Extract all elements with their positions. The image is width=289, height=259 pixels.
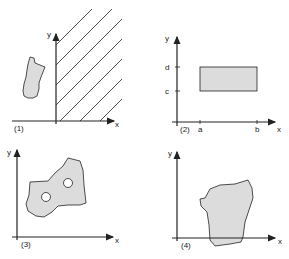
blob-region bbox=[23, 57, 45, 98]
y-axis-label: y bbox=[47, 30, 51, 39]
panel-label: (1) bbox=[14, 124, 24, 133]
x-axis-label: x bbox=[115, 236, 119, 245]
y-axis-label: y bbox=[165, 34, 169, 43]
panel-4: x y (4) bbox=[168, 149, 282, 250]
panel-2: d c a b x y (2) bbox=[165, 34, 281, 134]
tick-d: d bbox=[165, 63, 169, 72]
diagram-canvas: x y (1) d c a b x y (2) x y (3) x y bbox=[0, 0, 289, 259]
hole bbox=[64, 179, 73, 188]
crossing-region bbox=[200, 180, 253, 246]
tick-a: a bbox=[198, 125, 203, 134]
panel-label: (4) bbox=[181, 241, 191, 250]
tick-b: b bbox=[255, 125, 260, 134]
holed-region bbox=[26, 158, 86, 217]
panel-3: x y (3) bbox=[7, 148, 119, 249]
panel-label: (2) bbox=[180, 125, 190, 134]
tick-c: c bbox=[165, 87, 169, 96]
panel-1: x y (1) bbox=[12, 9, 132, 135]
x-axis-label: x bbox=[115, 120, 119, 129]
hole bbox=[42, 193, 51, 202]
x-axis-label: x bbox=[278, 237, 282, 246]
x-axis-label: x bbox=[277, 125, 281, 134]
hatch-region bbox=[56, 9, 132, 135]
y-axis-label: y bbox=[168, 149, 172, 158]
panel-label: (3) bbox=[21, 240, 31, 249]
rectangle-region bbox=[200, 67, 257, 91]
y-axis-label: y bbox=[7, 148, 11, 157]
